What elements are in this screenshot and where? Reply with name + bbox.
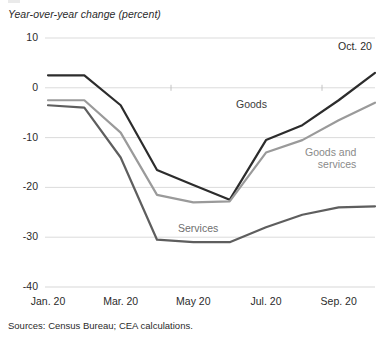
series-line-goods <box>48 73 375 200</box>
chart-plot-area <box>0 0 392 341</box>
y-tick-label: -40 <box>4 280 38 292</box>
x-tick-label: Sep. 20 <box>321 295 357 307</box>
y-tick-label: -30 <box>4 230 38 242</box>
series-label-services: Services <box>178 222 218 234</box>
series-label-goods-and-services-line2: services <box>305 158 356 170</box>
y-tick-label: 10 <box>4 31 38 43</box>
source-note: Sources: Census Bureau; CEA calculations… <box>8 320 193 331</box>
y-tick-label: -20 <box>4 180 38 192</box>
series-label-goods-and-services-line1: Goods and <box>305 146 356 158</box>
x-tick-label: Mar. 20 <box>103 295 138 307</box>
chart-figure: Year-over-year change (percent) 100-10-2… <box>0 0 392 341</box>
y-tick-label: -10 <box>4 131 38 143</box>
series-label-goods: Goods <box>236 98 267 110</box>
x-tick-label: Jul. 20 <box>251 295 282 307</box>
series-label-goods-and-services: Goods and services <box>305 146 356 170</box>
x-tick-label: Jan. 20 <box>31 295 65 307</box>
y-tick-label: 0 <box>4 81 38 93</box>
x-tick-label: May 20 <box>176 295 210 307</box>
annotation-oct-20: Oct. 20 <box>338 40 372 52</box>
